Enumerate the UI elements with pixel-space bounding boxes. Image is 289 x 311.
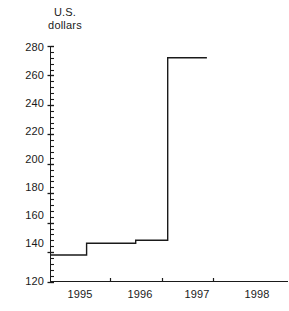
y-axis-group xyxy=(48,46,55,283)
chart-container: U.S. dollars 280 260 240 220 200 180 160… xyxy=(0,0,288,311)
data-series-group xyxy=(51,58,207,255)
y-minor-ticks xyxy=(51,47,54,283)
x-axis-group xyxy=(51,278,289,282)
series-line-us-dollars xyxy=(51,58,207,255)
plot-area xyxy=(0,0,288,311)
